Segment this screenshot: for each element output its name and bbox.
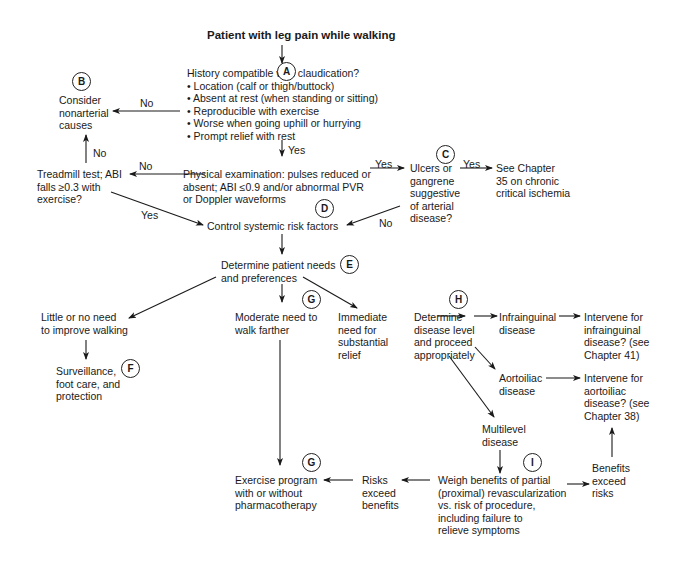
node-line: (proximal) revascularization bbox=[438, 487, 566, 500]
node-line: exceed bbox=[592, 475, 630, 488]
edge-label-physical-yes: Yes bbox=[375, 158, 392, 170]
node-line: falls ≥0.3 with bbox=[37, 181, 122, 194]
ulcers-node: Ulcers or gangrene suggestive of arteria… bbox=[410, 162, 460, 225]
node-line: Intervene for bbox=[584, 311, 649, 324]
node-line: and proceed bbox=[414, 336, 475, 349]
node-line: gangrene bbox=[410, 175, 460, 188]
node-line: Ulcers or bbox=[410, 162, 460, 175]
node-line: with or without bbox=[235, 487, 317, 500]
node-line: Little or no need bbox=[41, 311, 128, 324]
start-node: Patient with leg pain while walking bbox=[207, 29, 396, 42]
node-line: disease? bbox=[410, 212, 460, 225]
node-line: Chapter 38) bbox=[584, 410, 649, 423]
history-bullet: • Reproducible with exercise bbox=[187, 105, 378, 118]
badge-e: E bbox=[340, 255, 359, 274]
node-line: including failure to bbox=[438, 512, 566, 525]
badge-f: F bbox=[121, 359, 140, 378]
infrainguinal-node: Infrainguinal disease bbox=[499, 311, 556, 336]
history-bullet: • Absent at rest (when standing or sitti… bbox=[187, 92, 378, 105]
surveillance-node: Surveillance, foot care, and protection bbox=[56, 365, 120, 403]
node-line: disease? (see bbox=[584, 397, 649, 410]
badge-d: D bbox=[315, 199, 334, 218]
edge-label-ulcer-yes: Yes bbox=[463, 158, 480, 170]
node-line: Surveillance, bbox=[56, 365, 120, 378]
edge-label-ulcer-no: No bbox=[379, 217, 392, 229]
edge-label-history-no: No bbox=[140, 97, 153, 109]
little-need-node: Little or no need to improve walking bbox=[41, 311, 128, 336]
history-bullet: • Worse when going uphill or hurrying bbox=[187, 117, 378, 130]
edge-label-treadmill-yes: Yes bbox=[141, 209, 158, 221]
badge-h: H bbox=[449, 290, 468, 309]
node-line: Treadmill test; ABI bbox=[37, 168, 122, 181]
node-line: protection bbox=[56, 390, 120, 403]
history-bullet: • Location (calf or thigh/buttock) bbox=[187, 80, 378, 93]
node-line: disease level bbox=[414, 324, 475, 337]
history-bullet: • Prompt relief with rest bbox=[187, 130, 378, 143]
node-line: Aortoiliac bbox=[499, 372, 542, 385]
node-line: disease bbox=[499, 324, 556, 337]
node-line: Chapter 41) bbox=[584, 349, 649, 362]
node-line: Weigh benefits of partial bbox=[438, 474, 566, 487]
physical-exam-node: Physical examination: pulses reduced or … bbox=[183, 168, 371, 206]
node-line: nonarterial bbox=[59, 107, 109, 120]
edge-label-history-yes: Yes bbox=[288, 144, 305, 156]
chapter35-node: See Chapter 35 on chronic critical ische… bbox=[496, 162, 570, 200]
badge-a: A bbox=[277, 62, 296, 81]
immediate-need-node: Immediate need for substantial relief bbox=[338, 311, 388, 361]
node-line: aortoiliac bbox=[584, 385, 649, 398]
node-line: benefits bbox=[362, 499, 399, 512]
edge-label-physical-no: No bbox=[139, 160, 152, 172]
intervene-aortoiliac-node: Intervene for aortoiliac disease? (see C… bbox=[584, 372, 649, 422]
exercise-program-node: Exercise program with or without pharmac… bbox=[235, 474, 317, 512]
badge-i: I bbox=[523, 453, 542, 472]
badge-g-exercise: G bbox=[302, 453, 321, 472]
node-line: exercise? bbox=[37, 193, 122, 206]
node-line: critical ischemia bbox=[496, 187, 570, 200]
node-line: Moderate need to bbox=[235, 311, 317, 324]
node-line: Benefits bbox=[592, 462, 630, 475]
node-line: Intervene for bbox=[584, 372, 649, 385]
aortoiliac-node: Aortoiliac disease bbox=[499, 372, 542, 397]
node-line: causes bbox=[59, 119, 109, 132]
node-line: of arterial bbox=[410, 200, 460, 213]
node-line: Determine patient needs bbox=[221, 259, 335, 272]
node-line: disease bbox=[482, 436, 526, 449]
node-line: need for bbox=[338, 324, 388, 337]
node-line: relief bbox=[338, 349, 388, 362]
disease-level-node: Determine disease level and proceed appr… bbox=[414, 311, 475, 361]
intervene-infrainguinal-node: Intervene for infrainguinal disease? (se… bbox=[584, 311, 649, 361]
multilevel-node: Multilevel disease bbox=[482, 423, 526, 448]
node-line: Physical examination: pulses reduced or bbox=[183, 168, 371, 181]
badge-g-moderate: G bbox=[302, 290, 321, 309]
moderate-need-node: Moderate need to walk farther bbox=[235, 311, 317, 336]
node-line: Determine bbox=[414, 311, 475, 324]
weigh-benefits-node: Weigh benefits of partial (proximal) rev… bbox=[438, 474, 566, 537]
node-line: exceed bbox=[362, 487, 399, 500]
node-line: disease bbox=[499, 385, 542, 398]
node-line: infrainguinal bbox=[584, 324, 649, 337]
node-line: suggestive bbox=[410, 187, 460, 200]
nonarterial-node: Consider nonarterial causes bbox=[59, 94, 109, 132]
needs-node: Determine patient needs and preferences bbox=[221, 259, 335, 284]
node-line: disease? (see bbox=[584, 336, 649, 349]
edge-label-treadmill-no: No bbox=[93, 147, 106, 159]
node-line: walk farther bbox=[235, 324, 317, 337]
node-line: Immediate bbox=[338, 311, 388, 324]
badge-c: C bbox=[436, 145, 455, 164]
node-line: substantial bbox=[338, 336, 388, 349]
node-line: relieve symptoms bbox=[438, 524, 566, 537]
node-line: foot care, and bbox=[56, 378, 120, 391]
node-line: vs. risk of procedure, bbox=[438, 499, 566, 512]
node-line: and preferences bbox=[221, 272, 335, 285]
node-line: risks bbox=[592, 487, 630, 500]
risks-exceed-node: Risks exceed benefits bbox=[362, 474, 399, 512]
node-line: Exercise program bbox=[235, 474, 317, 487]
node-line: pharmacotherapy bbox=[235, 499, 317, 512]
benefits-exceed-node: Benefits exceed risks bbox=[592, 462, 630, 500]
node-line: Risks bbox=[362, 474, 399, 487]
node-line: See Chapter bbox=[496, 162, 570, 175]
node-line: Multilevel bbox=[482, 423, 526, 436]
node-line: to improve walking bbox=[41, 324, 128, 337]
node-line: appropriately bbox=[414, 349, 475, 362]
control-risk-node: Control systemic risk factors bbox=[207, 220, 338, 233]
